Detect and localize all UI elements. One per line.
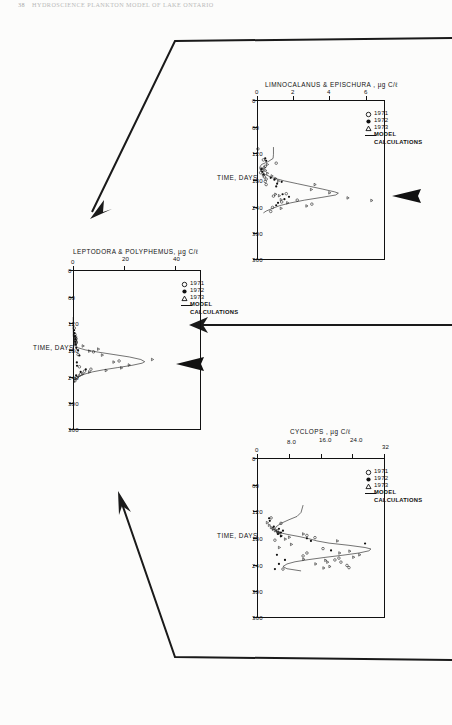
chart-cyclops: 0 60 120 180 240 300 360 0 8.0 16.0 24.0…	[228, 432, 408, 647]
open-circle-icon	[365, 111, 372, 118]
xtick-label: 240	[252, 204, 263, 211]
open-circle-icon	[365, 469, 372, 476]
y-axis-title: LIMNOCALANUS & EPISCHURA , µg C/ℓ	[265, 81, 398, 88]
chart-limnocalanus-epischura: 0 60 120 180 240 300 360 0 2 4 6 TIME, D…	[228, 78, 408, 293]
xtick-label: 120	[252, 508, 263, 515]
legend-label-model: MODEL	[374, 489, 396, 495]
running-head-title: HYDROSCIENCE PLANKTON MODEL OF LAKE ONTA…	[32, 1, 214, 8]
ytick-label: 32	[382, 443, 389, 450]
arrow-up-left-icon	[118, 491, 131, 515]
xtick-label: 0	[252, 97, 256, 104]
ytick	[124, 266, 125, 270]
legend-label: 1973	[190, 294, 204, 300]
ytick-label: 24.0	[350, 436, 363, 443]
ytick	[384, 454, 385, 458]
series-1971	[270, 517, 350, 571]
running-head: 38HYDROSCIENCE PLANKTON MODEL OF LAKE ON…	[18, 1, 436, 12]
xtick-label: 240	[68, 374, 79, 381]
ytick	[257, 96, 258, 100]
model-curve	[73, 317, 144, 383]
xtick-label: 360	[252, 614, 263, 621]
legend-label: 1973	[374, 124, 388, 130]
ytick-label: 8.0	[287, 438, 296, 445]
xtick-label: 60	[252, 124, 259, 131]
legend-label: 1972	[374, 475, 388, 481]
xtick-label: 300	[252, 230, 263, 237]
chart-leptodora-polyphemus: 0 60 120 180 240 300 360 0 20 40 TIME, D…	[44, 248, 224, 463]
legend-label: 1972	[374, 117, 388, 123]
ytick-label: 16.0	[319, 436, 332, 443]
ytick	[352, 454, 353, 458]
y-axis-title: CYCLOPS , µg C/ℓ	[290, 428, 351, 435]
document-page: 38HYDROSCIENCE PLANKTON MODEL OF LAKE ON…	[0, 0, 452, 725]
x-axis-title: TIME, DAYS	[217, 532, 258, 539]
xtick-label: 60	[68, 294, 75, 301]
xtick-label: 360	[252, 256, 263, 263]
ytick-label: 0	[255, 446, 259, 453]
xtick-label: 0	[252, 455, 256, 462]
legend-label-model-2: CALCULATIONS	[374, 139, 422, 145]
open-circle-icon	[181, 281, 188, 288]
x-axis-title: TIME, DAYS	[217, 174, 258, 181]
filled-circle-icon	[365, 476, 372, 483]
legend-label-model: MODEL	[190, 301, 212, 307]
ytick-label: 4	[327, 88, 331, 95]
filled-circle-icon	[181, 288, 188, 295]
page-number: 38	[18, 1, 25, 8]
xtick-label: 0	[68, 267, 72, 274]
filled-circle-icon	[365, 118, 372, 125]
legend-label-model: MODEL	[374, 131, 396, 137]
xtick-label: 300	[252, 588, 263, 595]
ytick	[289, 454, 290, 458]
ytick	[257, 454, 258, 458]
model-curve	[260, 147, 339, 213]
open-triangle-icon	[181, 295, 188, 302]
ytick-label: 2	[291, 88, 295, 95]
y-axis-title: LEPTODORA & POLYPHEMUS, µg C/ℓ	[73, 248, 198, 255]
x-axis-title: TIME, DAYS	[33, 344, 74, 351]
ytick-label: 20	[122, 255, 129, 262]
arrow-down-left-icon	[90, 200, 112, 219]
open-triangle-icon	[365, 483, 372, 490]
ytick	[366, 96, 367, 100]
ytick-label: 0	[71, 258, 75, 265]
legend-label-model-2: CALCULATIONS	[374, 497, 422, 503]
series-1973	[264, 163, 373, 209]
legend-label: 1971	[374, 110, 388, 116]
ytick	[73, 266, 74, 270]
ytick	[293, 96, 294, 100]
ytick-label: 40	[173, 255, 180, 262]
legend-label-model-2: CALCULATIONS	[190, 309, 238, 315]
ytick-label: 6	[364, 88, 368, 95]
xtick-label: 360	[68, 426, 79, 433]
xtick-label: 300	[68, 400, 79, 407]
open-triangle-icon	[365, 125, 372, 132]
legend-label: 1972	[190, 287, 204, 293]
legend-label: 1973	[374, 482, 388, 488]
ytick	[329, 96, 330, 100]
series-1972	[260, 157, 290, 206]
xtick-label: 240	[252, 562, 263, 569]
xtick-label: 120	[252, 150, 263, 157]
legend-label: 1971	[190, 280, 204, 286]
series-1973	[73, 334, 153, 380]
ytick	[321, 454, 322, 458]
ytick-label: 0	[255, 88, 259, 95]
legend-label: 1971	[374, 468, 388, 474]
ytick	[175, 266, 176, 270]
xtick-label: 60	[252, 482, 259, 489]
xtick-label: 120	[68, 320, 79, 327]
series-1972	[268, 517, 366, 570]
